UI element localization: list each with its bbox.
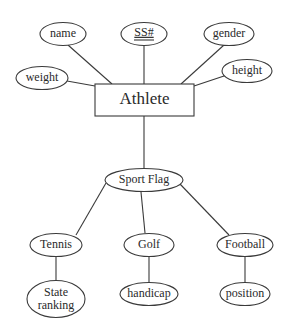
attribute-position: position <box>220 283 270 306</box>
connector-sportflag-football <box>180 184 229 235</box>
subtype-golf: Golf <box>124 234 174 257</box>
connector-weight <box>67 81 95 86</box>
attribute-handicap-label: handicap <box>127 286 170 300</box>
attribute-height-label: height <box>232 63 263 77</box>
connector-sportflag-golf <box>141 192 145 233</box>
attribute-ssn-label: SS# <box>134 25 153 39</box>
attribute-ssn: SS# <box>121 23 167 46</box>
attribute-state-ranking: State ranking <box>27 281 85 318</box>
attribute-position-label: position <box>226 286 265 300</box>
attribute-gender: gender <box>204 23 254 46</box>
er-diagram: name SS# gender weight height Athlete Sp… <box>0 0 290 336</box>
attribute-handicap: handicap <box>120 283 178 306</box>
subtype-tennis-label: Tennis <box>40 237 72 251</box>
subtype-football: Football <box>217 234 273 257</box>
connector-name <box>68 45 112 84</box>
subtype-golf-label: Golf <box>138 237 160 251</box>
connector-sportflag-tennis <box>76 183 106 235</box>
entity-athlete: Athlete <box>95 84 194 116</box>
attribute-weight-label: weight <box>26 70 59 84</box>
discriminator-label: Sport Flag <box>119 172 169 186</box>
attribute-gender-label: gender <box>213 26 246 40</box>
attribute-state-ranking-line1: State <box>44 285 68 299</box>
attribute-weight: weight <box>16 67 68 90</box>
connector-height <box>194 76 224 86</box>
entity-athlete-label: Athlete <box>119 89 169 108</box>
attribute-name: name <box>40 23 86 46</box>
attribute-state-ranking-line2: ranking <box>38 298 75 312</box>
attribute-height: height <box>222 60 272 83</box>
discriminator-sport-flag: Sport Flag <box>105 169 183 192</box>
subtype-football-label: Football <box>225 237 266 251</box>
subtype-tennis: Tennis <box>30 234 82 257</box>
attribute-name-label: name <box>50 26 76 40</box>
